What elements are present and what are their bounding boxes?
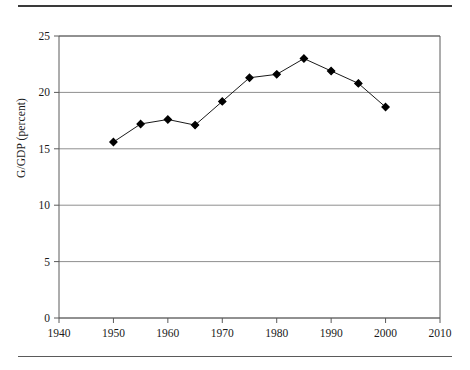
data-point-marker bbox=[110, 138, 117, 145]
y-tick-label: 20 bbox=[39, 86, 51, 98]
y-tick-label: 10 bbox=[39, 199, 51, 211]
y-tick-label: 0 bbox=[44, 312, 50, 324]
x-tick-label: 1940 bbox=[48, 327, 71, 339]
y-tick-label: 5 bbox=[44, 256, 50, 268]
y-tick-label: 15 bbox=[39, 143, 51, 155]
x-tick-label: 1960 bbox=[156, 327, 179, 339]
x-tick-label: 1950 bbox=[102, 327, 125, 339]
x-tick-label: 1970 bbox=[211, 327, 234, 339]
x-tick-label: 2010 bbox=[429, 327, 452, 339]
figure-container: 0510152025194019501960197019801990200020… bbox=[0, 0, 470, 370]
x-tick-label: 1980 bbox=[265, 327, 288, 339]
data-point-marker bbox=[328, 67, 335, 74]
data-point-marker bbox=[273, 71, 280, 78]
data-point-marker bbox=[137, 120, 144, 127]
data-point-marker bbox=[164, 116, 171, 123]
data-line-g-gdp bbox=[113, 59, 385, 142]
figure-bottom-rule bbox=[18, 356, 452, 357]
x-tick-label: 2000 bbox=[374, 327, 397, 339]
figure-caption-clipped bbox=[18, 362, 452, 370]
data-point-marker bbox=[300, 55, 307, 62]
y-axis-label: G/GDP (percent) bbox=[15, 73, 27, 203]
line-chart: 0510152025194019501960197019801990200020… bbox=[0, 0, 470, 340]
plot-area: 0510152025194019501960197019801990200020… bbox=[0, 0, 470, 340]
x-tick-label: 1990 bbox=[320, 327, 343, 339]
y-tick-label: 25 bbox=[39, 30, 51, 42]
